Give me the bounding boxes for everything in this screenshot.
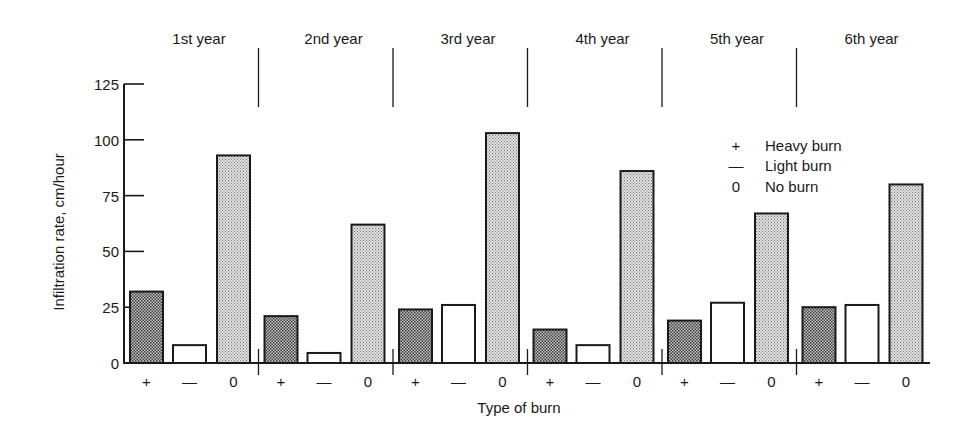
bar-no-burn [755, 213, 788, 363]
burn-type-label: + [142, 373, 151, 390]
year-label: 1st year [172, 30, 225, 47]
y-tick-label: 125 [94, 76, 119, 93]
legend-none-label: No burn [765, 178, 818, 195]
y-tick-label: 100 [94, 132, 119, 149]
bar-no-burn [621, 171, 654, 363]
burn-type-label: + [411, 373, 420, 390]
bar-light-burn [442, 305, 475, 363]
bar-heavy-burn [803, 307, 836, 363]
bar-no-burn [217, 155, 250, 363]
bar-light-burn [308, 353, 341, 363]
bar-light-burn [577, 345, 610, 363]
burn-type-label: 0 [498, 373, 506, 390]
burn-type-label: 0 [902, 373, 910, 390]
year-label: 6th year [844, 30, 898, 47]
burn-type-label: 0 [633, 373, 641, 390]
burn-type-label: — [586, 373, 601, 390]
infiltration-rate-bar-chart: Infiltration rate, cm/hour 0255075100125… [0, 0, 974, 438]
burn-type-label: — [317, 373, 332, 390]
burn-type-label: — [855, 373, 870, 390]
bar-no-burn [890, 184, 923, 363]
y-axis-title: Infiltration rate, cm/hour [50, 153, 67, 311]
legend-light-symbol: — [729, 157, 744, 174]
x-axis-title: Type of burn [477, 399, 560, 416]
bar-no-burn [486, 133, 519, 363]
bar-heavy-burn [668, 321, 701, 363]
year-label: 4th year [575, 30, 629, 47]
year-label: 2nd year [304, 30, 362, 47]
y-tick-label: 75 [102, 188, 119, 205]
y-tick-label: 0 [111, 355, 119, 372]
burn-type-label: 0 [229, 373, 237, 390]
bar-light-burn [846, 305, 879, 363]
legend-heavy-label: Heavy burn [765, 137, 842, 154]
burn-type-tick-labels: +—0+—0+—0+—0+—0+—0 [142, 373, 910, 390]
burn-type-label: + [277, 373, 286, 390]
burn-type-label: + [546, 373, 555, 390]
bar-light-burn [173, 345, 206, 363]
legend: + Heavy burn — Light burn 0 No burn [729, 137, 842, 195]
bar-heavy-burn [130, 292, 163, 363]
legend-none-symbol: 0 [732, 178, 740, 195]
bar-heavy-burn [265, 316, 298, 363]
burn-type-label: — [451, 373, 466, 390]
burn-type-label: 0 [364, 373, 372, 390]
bar-light-burn [711, 303, 744, 363]
burn-type-label: 0 [767, 373, 775, 390]
y-tick-label: 50 [102, 243, 119, 260]
bar-heavy-burn [399, 309, 432, 363]
year-label: 3rd year [440, 30, 495, 47]
bar-no-burn [352, 225, 385, 363]
burn-type-label: — [182, 373, 197, 390]
burn-type-label: — [720, 373, 735, 390]
y-tick-label: 25 [102, 299, 119, 316]
year-labels: 1st year2nd year3rd year4th year5th year… [172, 30, 898, 47]
burn-type-label: + [680, 373, 689, 390]
burn-type-label: + [815, 373, 824, 390]
bar-heavy-burn [534, 330, 567, 363]
year-label: 5th year [710, 30, 764, 47]
legend-heavy-symbol: + [732, 137, 741, 154]
legend-light-label: Light burn [765, 157, 832, 174]
